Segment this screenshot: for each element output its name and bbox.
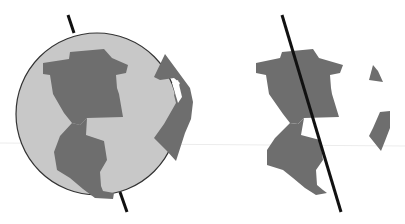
axis-north-stub [68, 15, 74, 33]
left-globe-panel [16, 15, 193, 212]
continent-south-right [267, 118, 327, 195]
continent-east-fragment-top [369, 65, 383, 82]
continent-north-right [256, 49, 343, 124]
globe-diagram [0, 0, 405, 224]
right-globe-panel [256, 15, 390, 212]
continent-east-fragment-bottom [369, 111, 390, 151]
axis-south-stub [120, 192, 127, 212]
